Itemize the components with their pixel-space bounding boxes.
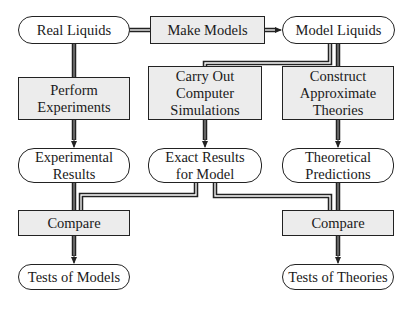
node-label: Compare <box>47 215 100 232</box>
node-computer-simulations: Carry Out Computer Simulations <box>148 66 262 120</box>
node-label: Exact Results for Model <box>165 149 244 183</box>
node-label: Theoretical Predictions <box>305 149 371 183</box>
node-compare-left: Compare <box>18 210 130 236</box>
node-label: Carry Out Computer Simulations <box>170 68 239 119</box>
node-label: Real Liquids <box>37 22 112 39</box>
node-exact-results: Exact Results for Model <box>148 148 262 183</box>
node-real-liquids: Real Liquids <box>18 16 130 44</box>
connector-exact-to-compare-left <box>81 183 196 210</box>
connector-exact-to-compare-right <box>215 183 330 210</box>
node-tests-of-theories: Tests of Theories <box>282 264 394 290</box>
node-label: Tests of Theories <box>288 269 387 286</box>
node-experimental-results: Experimental Results <box>18 148 130 183</box>
node-approximate-theories: Construct Approximate Theories <box>282 66 394 120</box>
node-label: Perform Experiments <box>37 82 110 116</box>
node-label: Model Liquids <box>296 22 382 39</box>
node-label: Make Models <box>167 22 247 39</box>
node-model-liquids: Model Liquids <box>282 16 395 44</box>
node-compare-right: Compare <box>282 210 394 236</box>
node-perform-experiments: Perform Experiments <box>18 77 130 120</box>
connector-model-to-simulations <box>205 44 330 66</box>
node-tests-of-models: Tests of Models <box>18 264 130 290</box>
node-make-models: Make Models <box>150 16 265 44</box>
node-label: Compare <box>311 215 364 232</box>
node-theoretical-predictions: Theoretical Predictions <box>282 148 394 183</box>
node-label: Tests of Models <box>28 269 120 286</box>
node-label: Experimental Results <box>35 149 113 183</box>
node-label: Construct Approximate Theories <box>300 68 377 119</box>
